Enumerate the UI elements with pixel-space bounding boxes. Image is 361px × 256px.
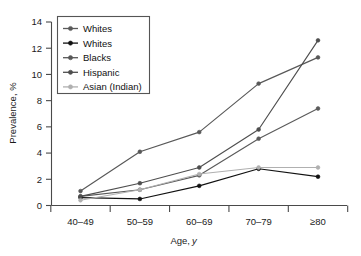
data-point — [316, 38, 320, 42]
data-point — [138, 181, 142, 185]
y-tick-label: 8 — [37, 95, 42, 106]
data-point — [257, 82, 261, 86]
y-axis-ticks: 02468101214 — [31, 16, 51, 211]
y-tick-label: 2 — [37, 174, 42, 185]
y-tick-label: 4 — [37, 147, 42, 158]
y-tick-label: 10 — [31, 69, 42, 80]
data-point — [257, 137, 261, 141]
legend-label: Blacks — [83, 52, 111, 63]
x-tick-label: 50–59 — [127, 216, 153, 227]
x-tick-label: ≥80 — [310, 216, 326, 227]
data-point — [197, 172, 201, 176]
data-point — [138, 150, 142, 154]
data-point — [79, 194, 83, 198]
series-line — [81, 109, 319, 197]
line-chart: 02468101214 40–4950–5960–6970–79≥80 Prev… — [0, 0, 361, 256]
data-point — [316, 175, 320, 179]
legend-swatch-marker — [68, 85, 72, 89]
x-axis-title: Age, — [170, 235, 190, 246]
legend-label: Whites — [83, 38, 112, 49]
x-axis-ticks: 40–4950–5960–6970–79≥80 — [51, 206, 348, 228]
data-point — [316, 107, 320, 111]
data-point — [257, 166, 261, 170]
legend-swatch-marker — [68, 41, 72, 45]
y-tick-label: 0 — [37, 200, 42, 211]
x-tick-label: 60–69 — [186, 216, 212, 227]
x-tick-label: 70–79 — [245, 216, 271, 227]
legend-swatch-marker — [68, 56, 72, 60]
data-point — [316, 55, 320, 59]
data-point — [197, 184, 201, 188]
y-axis-title: Prevalence, % — [7, 82, 18, 144]
x-tick-label: 40–49 — [67, 216, 93, 227]
legend-swatch-marker — [68, 26, 72, 30]
x-axis-title-unit: y — [191, 235, 198, 246]
data-point — [138, 197, 142, 201]
data-point — [197, 130, 201, 134]
y-tick-label: 12 — [31, 43, 42, 54]
data-point — [79, 198, 83, 202]
legend-label: Asian (Indian) — [83, 81, 142, 92]
data-point — [257, 128, 261, 132]
data-point — [79, 189, 83, 193]
y-tick-label: 6 — [37, 121, 42, 132]
data-point — [316, 166, 320, 170]
legend-swatch-marker — [68, 70, 72, 74]
y-tick-label: 14 — [31, 16, 42, 27]
data-point — [197, 166, 201, 170]
legend-label: Hispanic — [83, 67, 120, 78]
data-point — [138, 188, 142, 192]
chart-container: 02468101214 40–4950–5960–6970–79≥80 Prev… — [0, 0, 361, 256]
legend-label: Whites — [83, 23, 112, 34]
